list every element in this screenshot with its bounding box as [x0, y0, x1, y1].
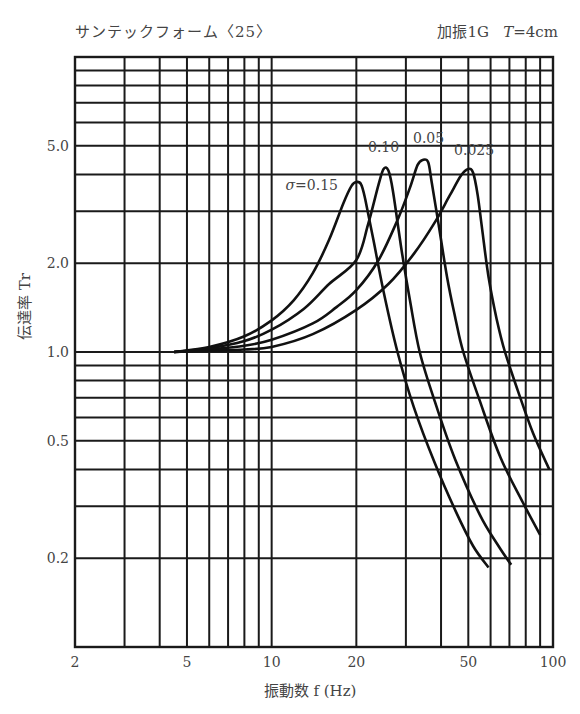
transmissibility-curve [174, 169, 549, 470]
x-tick-label: 2 [71, 654, 80, 670]
y-tick-label: 0.5 [47, 433, 69, 449]
y-tick-label: 2.0 [47, 255, 69, 271]
y-tick-label: 0.2 [47, 550, 69, 566]
x-tick-label: 50 [459, 654, 477, 670]
y-tick-label: 5.0 [47, 138, 69, 154]
curve-label: 0.10 [368, 139, 399, 155]
x-tick-label: 10 [263, 654, 281, 670]
x-axis-label: 振動数 f (Hz) [0, 679, 580, 700]
curve-label: 0.025 [454, 142, 494, 158]
y-tick-label: 1.0 [47, 344, 69, 360]
x-tick-label: 5 [182, 654, 191, 670]
curve-label: 0.05 [413, 130, 444, 146]
curve-labels: σ=0.150.100.050.025 [286, 130, 495, 192]
x-tick-label: 20 [347, 654, 365, 670]
transmissibility-plot: 251020501000.20.51.02.05.0 σ=0.150.100.0… [0, 0, 580, 714]
curve-label: σ=0.15 [286, 177, 338, 193]
sigma-value: =0.15 [295, 177, 338, 193]
x-tick-label: 100 [540, 654, 567, 670]
y-axis-label: 伝達率 Tr [13, 252, 34, 362]
sigma-symbol: σ [286, 177, 296, 193]
